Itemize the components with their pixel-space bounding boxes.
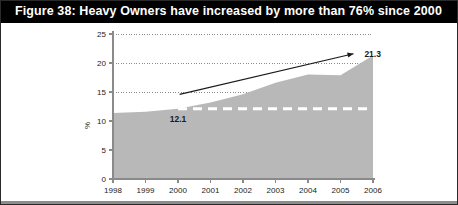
growth-arrow-head: [347, 53, 353, 58]
x-axis-tick-label: 2006: [364, 186, 382, 195]
figure-title-bar: Figure 38: Heavy Owners have increased b…: [1, 1, 458, 23]
x-axis-tick-label: 2004: [299, 186, 317, 195]
y-axis-tick-label: 25: [97, 30, 106, 39]
area-chart: 0510152025199819992000200120022003200420…: [1, 23, 458, 205]
x-axis-tick-label: 2003: [267, 186, 285, 195]
x-axis-tick-label: 2005: [332, 186, 350, 195]
y-axis-tick-label: 10: [97, 117, 106, 126]
page-title: Figure 38: Heavy Owners have increased b…: [15, 4, 442, 18]
x-axis-tick-label: 2002: [234, 186, 252, 195]
area-series-heavy-owners: [113, 55, 373, 179]
figure-container: Figure 38: Heavy Owners have increased b…: [0, 0, 458, 205]
annotation-end-value: 21.3: [364, 49, 381, 59]
y-axis-tick-label: 5: [102, 146, 107, 155]
y-axis-tick-label: 0: [102, 175, 107, 184]
y-axis-tick-label: 15: [97, 88, 106, 97]
chart-plot-container: 0510152025199819992000200120022003200420…: [1, 23, 458, 205]
y-axis-title: %: [83, 118, 92, 134]
x-axis-tick-label: 1999: [137, 186, 155, 195]
figure-bottom-rule: [1, 201, 458, 204]
y-axis-tick-label: 20: [97, 59, 106, 68]
x-axis-tick-label: 2001: [202, 186, 220, 195]
x-axis-tick-label: 2000: [169, 186, 187, 195]
annotation-start-value: 12.1: [170, 114, 187, 124]
x-axis-tick-label: 1998: [104, 186, 122, 195]
